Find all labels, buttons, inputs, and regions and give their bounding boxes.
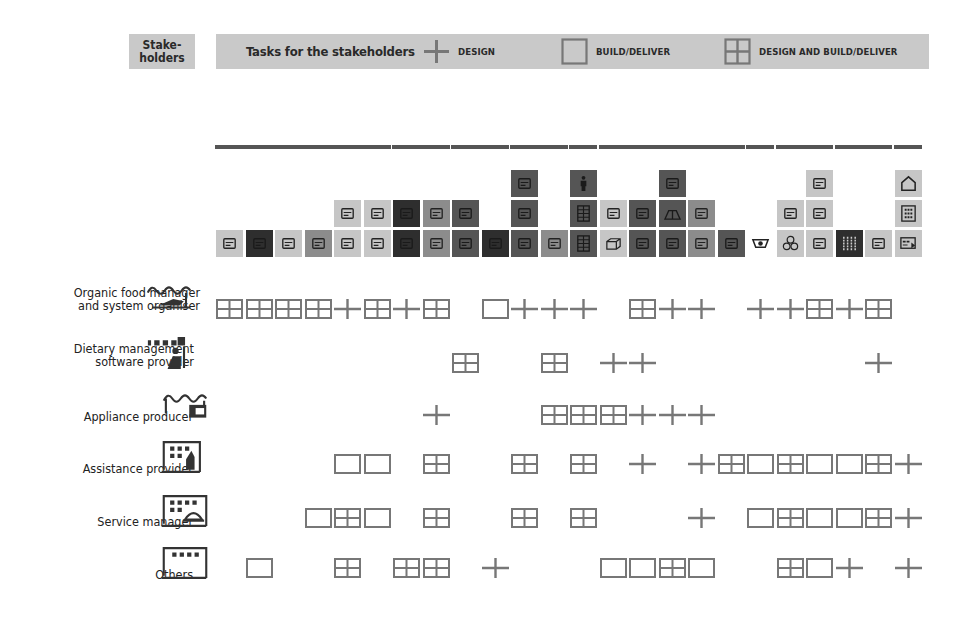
task-tile: [629, 200, 656, 227]
design-marker: [836, 299, 863, 319]
design-build-marker: [865, 454, 892, 474]
grid-design-build-icon: [724, 38, 751, 65]
design-marker: [629, 454, 656, 474]
coin-box-icon: [810, 234, 829, 253]
build-marker: [806, 454, 833, 474]
build-marker: [305, 508, 332, 528]
office-worker-icon: [142, 336, 192, 370]
build-marker: [482, 299, 509, 319]
design-marker: [423, 405, 450, 425]
design-marker: [895, 454, 922, 474]
task-tile: [541, 230, 568, 257]
robot-arm-icon: [220, 234, 239, 253]
task-tile: [688, 230, 715, 257]
device-icon: [869, 234, 888, 253]
tasks-title: Tasks for the stakeholders: [246, 44, 415, 59]
design-build-marker: [511, 508, 538, 528]
basket-icon: [397, 204, 416, 223]
design-marker: [570, 299, 597, 319]
design-build-marker: [334, 558, 361, 578]
design-marker: [334, 299, 361, 319]
task-tile: [777, 230, 804, 257]
coin-box-icon: [810, 204, 829, 223]
packages-icon: [515, 234, 534, 253]
design-marker: [747, 299, 774, 319]
task-tile: [482, 230, 509, 257]
task-tile: [393, 230, 420, 257]
build-marker: [688, 558, 715, 578]
design-build-marker: [423, 299, 450, 319]
grid-panel-icon: [840, 234, 859, 253]
cup-icon: [486, 234, 505, 253]
task-tile: [629, 230, 656, 257]
design-marker: [659, 405, 686, 425]
design-build-marker: [777, 558, 804, 578]
task-tile: [452, 200, 479, 227]
task-group-bar: [392, 145, 450, 149]
appliance-factory-icon: [160, 390, 210, 424]
task-tile: [865, 230, 892, 257]
design-build-marker: [423, 508, 450, 528]
shelves-icon: [574, 234, 593, 253]
build-marker: [600, 558, 627, 578]
design-build-marker: [541, 405, 568, 425]
task-tile: [452, 230, 479, 257]
task-tile: [688, 200, 715, 227]
washbasin-icon: [751, 234, 770, 253]
tag-icon: [663, 174, 682, 193]
task-tile: [364, 200, 391, 227]
task-tile: [806, 200, 833, 227]
design-marker: [688, 299, 715, 319]
task-tile: [216, 230, 243, 257]
task-tile: [570, 170, 597, 197]
box-open-icon: [515, 174, 534, 193]
envelope-icon: [338, 204, 357, 223]
box-build-icon: [561, 38, 588, 65]
design-build-marker: [659, 558, 686, 578]
task-tile: [659, 200, 686, 227]
legend-design: DESIGN: [423, 38, 495, 65]
task-tile: [659, 230, 686, 257]
assistance-building-icon: [160, 440, 210, 474]
design-build-marker: [511, 454, 538, 474]
legend-design-label: DESIGN: [458, 46, 495, 57]
animal-icon: [692, 204, 711, 223]
task-tile: [246, 230, 273, 257]
generic-building-icon: [160, 546, 210, 580]
design-build-marker: [629, 299, 656, 319]
plus-design-icon: [423, 38, 450, 65]
design-marker: [777, 299, 804, 319]
tray-icon: [663, 234, 682, 253]
build-marker: [364, 508, 391, 528]
service-building-icon: [160, 494, 210, 528]
task-group-bar: [510, 145, 568, 149]
build-marker: [836, 454, 863, 474]
legend-build-label: BUILD/DELIVER: [596, 46, 670, 57]
design-build-marker: [216, 299, 243, 319]
tent-icon: [663, 204, 682, 223]
task-tile: [570, 200, 597, 227]
coin-card-icon: [810, 174, 829, 193]
task-tile: [364, 230, 391, 257]
design-marker: [895, 508, 922, 528]
task-group-bar: [215, 145, 391, 149]
task-tile: [659, 170, 686, 197]
plate-icon: [633, 234, 652, 253]
presenter-icon: [427, 204, 446, 223]
hands-icon: [722, 234, 741, 253]
task-tile: [393, 200, 420, 227]
design-build-marker: [777, 454, 804, 474]
task-tile: [423, 230, 450, 257]
screen-icon: [250, 234, 269, 253]
task-tile: [511, 170, 538, 197]
cabinet-icon: [545, 234, 564, 253]
truck-icon: [309, 234, 328, 253]
pot-icon: [633, 204, 652, 223]
cube-icon: [604, 234, 623, 253]
design-build-marker: [570, 508, 597, 528]
build-marker: [747, 508, 774, 528]
task-tile: [570, 230, 597, 257]
task-tile: [718, 230, 745, 257]
task-group-bar: [599, 145, 745, 149]
design-marker: [629, 353, 656, 373]
